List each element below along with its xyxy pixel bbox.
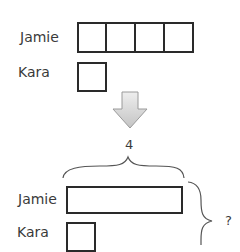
down-arrow-icon xyxy=(113,92,147,128)
top-brace-label: 4 xyxy=(125,137,133,152)
side-brace-label: ? xyxy=(225,213,232,228)
kara-bar xyxy=(66,222,96,252)
bottom-label-jamie: Jamie xyxy=(18,191,57,207)
side-brace-icon xyxy=(188,182,212,245)
top-brace-icon xyxy=(63,157,184,178)
jamie-combined-bar xyxy=(66,186,183,214)
bottom-label-kara: Kara xyxy=(17,224,49,240)
